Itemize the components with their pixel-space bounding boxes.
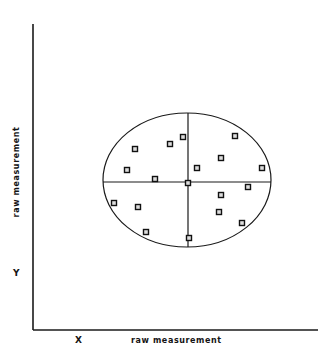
scatter-plot-figure: raw measurement raw measurement Y X [0,0,329,361]
data-point-marker [217,210,222,215]
x-axis-label: raw measurement [131,337,222,345]
data-point-marker [136,205,141,210]
data-point-marker [219,193,224,198]
data-point-marker [233,134,238,139]
data-point-marker [168,142,173,147]
y-axis-label: raw measurement [13,117,21,227]
x-axis-tick-label: X [75,336,83,345]
data-point-marker [187,236,192,241]
data-point-marker [219,156,224,161]
data-point-marker [112,201,117,206]
data-point-marker [186,181,191,186]
data-point-marker [144,230,149,235]
data-point-marker [153,177,158,182]
data-point-marker [133,147,138,152]
data-point-marker [125,168,130,173]
data-point-marker [181,135,186,140]
data-point-marker [260,166,265,171]
plot-canvas [0,0,329,361]
data-point-marker [195,166,200,171]
data-point-marker [246,185,251,190]
y-axis-tick-label: Y [13,269,20,278]
axes-group [33,24,318,330]
data-point-marker [240,221,245,226]
